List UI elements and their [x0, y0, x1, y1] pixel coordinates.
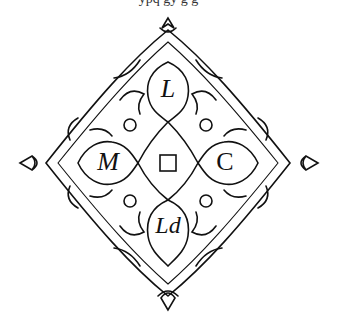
monogram-letter-top: L: [154, 74, 182, 104]
monogram-letter-right: C: [210, 147, 240, 177]
monogram-letter-bottom: Ld: [150, 212, 186, 239]
ornamental-diamond-monogram: [0, 0, 337, 327]
monogram-letter-left: M: [88, 147, 128, 177]
